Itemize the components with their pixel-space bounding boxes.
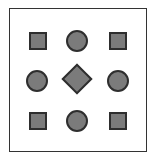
circle-middle-left: [26, 70, 48, 92]
square-bottom-left: [29, 112, 47, 130]
square-top-right: [109, 32, 127, 50]
square-bottom-right: [109, 112, 127, 130]
circle-top-center: [66, 30, 88, 52]
circle-middle-right: [107, 70, 129, 92]
circle-bottom-center: [66, 110, 88, 132]
square-top-left: [29, 32, 47, 50]
